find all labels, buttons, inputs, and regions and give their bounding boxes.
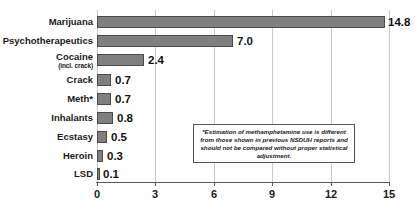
- x-tick-label-15: 15: [369, 188, 409, 200]
- category-label-text: Cocaine: [56, 50, 93, 61]
- bar-value-lsd: 0.1: [103, 168, 119, 180]
- x-tick-3: [155, 182, 156, 186]
- bar-value-meth: 0.7: [115, 93, 131, 105]
- bar-row: Psychotherapeutics 7.0: [0, 31, 415, 50]
- methamphetamine-footnote-text: *Estimation of methamphetamine use is di…: [197, 128, 351, 160]
- bar-chart: Marijuana 14.8 Psychotherapeutics 7.0 Co…: [0, 0, 415, 205]
- category-sublabel-cocaine: (incl. crack): [0, 61, 93, 68]
- bar-cocaine: [97, 54, 144, 66]
- category-label-text: Heroin: [63, 150, 93, 161]
- x-tick-label-6: 6: [194, 188, 234, 200]
- bar-value-marijuana: 14.8: [388, 16, 410, 28]
- category-label-psychotherapeutics: Psychotherapeutics: [0, 36, 93, 46]
- bar-inhalants: [97, 112, 113, 124]
- methamphetamine-footnote-box: *Estimation of methamphetamine use is di…: [193, 124, 355, 163]
- bar-lsd: [97, 168, 100, 180]
- bar-row: Meth* 0.7: [0, 89, 415, 108]
- x-tick-0: [97, 182, 98, 186]
- category-label-text: Meth*: [67, 93, 93, 104]
- category-label-cocaine: Cocaine (incl. crack): [0, 51, 93, 68]
- category-label-text: Marijuana: [49, 16, 93, 27]
- bar-value-psychotherapeutics: 7.0: [237, 35, 253, 47]
- bar-value-crack: 0.7: [115, 74, 131, 86]
- x-tick-12: [331, 182, 332, 186]
- x-tick-label-12: 12: [311, 188, 351, 200]
- x-tick-label-3: 3: [135, 188, 175, 200]
- bar-row: LSD 0.1: [0, 164, 415, 183]
- x-axis-line: [96, 182, 390, 183]
- bar-crack: [97, 74, 111, 86]
- bar-value-ecstasy: 0.5: [111, 131, 127, 143]
- category-label-inhalants: Inhalants: [0, 113, 93, 123]
- x-tick-label-0: 0: [77, 188, 117, 200]
- bar-marijuana: [97, 16, 385, 28]
- category-label-text: Inhalants: [51, 112, 93, 123]
- bar-value-heroin: 0.3: [107, 150, 123, 162]
- bar-row: Crack 0.7: [0, 70, 415, 89]
- category-label-heroin: Heroin: [0, 151, 93, 161]
- category-label-ecstasy: Ecstasy: [0, 132, 93, 142]
- bar-value-inhalants: 0.8: [117, 112, 133, 124]
- x-tick-9: [272, 182, 273, 186]
- category-label-meth: Meth*: [0, 94, 93, 104]
- x-tick-label-9: 9: [252, 188, 292, 200]
- category-label-crack: Crack: [0, 75, 93, 85]
- bar-psychotherapeutics: [97, 35, 233, 47]
- category-label-marijuana: Marijuana: [0, 17, 93, 27]
- category-label-text: Psychotherapeutics: [3, 35, 93, 46]
- category-label-text: Ecstasy: [57, 131, 93, 142]
- bar-heroin: [97, 150, 103, 162]
- x-tick-15: [389, 182, 390, 186]
- bar-ecstasy: [97, 131, 107, 143]
- bar-row: Marijuana 14.8: [0, 12, 415, 31]
- category-label-lsd: LSD: [0, 169, 93, 179]
- bar-row: Cocaine (incl. crack) 2.4: [0, 50, 415, 69]
- bar-meth: [97, 93, 111, 105]
- category-label-text: Crack: [67, 74, 93, 85]
- bar-value-cocaine: 2.4: [148, 54, 164, 66]
- category-label-text: LSD: [74, 168, 93, 179]
- x-tick-6: [214, 182, 215, 186]
